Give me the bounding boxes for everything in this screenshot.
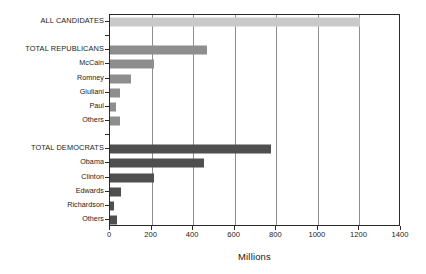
category-label: ALL CANDIDATES <box>41 17 104 24</box>
category-label: Others <box>82 215 104 222</box>
category-label: TOTAL DEMOCRATS <box>31 145 104 152</box>
x-axis-tick-label: 1400 <box>392 231 409 239</box>
y-axis-tick <box>105 191 109 192</box>
y-axis-tick <box>105 219 109 220</box>
bar <box>110 145 271 154</box>
category-label: Clinton <box>81 173 104 180</box>
y-axis-tick <box>105 21 109 22</box>
plot-area <box>109 14 400 226</box>
bar <box>110 102 116 111</box>
bar <box>110 74 131 83</box>
category-label: Obama <box>80 159 104 166</box>
gridline <box>235 15 236 225</box>
bar <box>110 46 207 55</box>
x-axis-tick-label: 600 <box>227 231 240 239</box>
gridline <box>359 15 360 225</box>
x-axis-tick-label: 1000 <box>308 231 325 239</box>
y-axis-tick <box>105 63 109 64</box>
y-axis-tick <box>105 205 109 206</box>
bar <box>110 173 154 182</box>
x-axis-title: Millions <box>109 252 400 261</box>
y-axis-tick <box>105 49 109 50</box>
bar <box>110 215 117 224</box>
category-label: Richardson <box>67 201 104 208</box>
bar-chart: ALL CANDIDATESTOTAL REPUBLICANSMcCainRom… <box>0 0 426 274</box>
category-label: Paul <box>89 102 104 109</box>
y-axis-tick <box>105 120 109 121</box>
x-axis-tick-label: 1200 <box>350 231 367 239</box>
y-axis-tick <box>105 35 109 36</box>
bar <box>110 88 120 97</box>
category-label: McCain <box>79 60 104 67</box>
category-label: Others <box>82 116 104 123</box>
category-label: TOTAL REPUBLICANS <box>25 46 104 53</box>
x-axis-tick-label: 200 <box>144 231 157 239</box>
category-label: Giuliani <box>80 88 104 95</box>
x-axis-tick-label: 0 <box>107 231 111 239</box>
y-axis-tick <box>105 92 109 93</box>
category-label-column: ALL CANDIDATESTOTAL REPUBLICANSMcCainRom… <box>0 14 107 226</box>
bar <box>110 117 120 126</box>
bar <box>110 159 204 168</box>
y-axis-tick <box>105 134 109 135</box>
y-axis-tick <box>105 177 109 178</box>
gridline <box>276 15 277 225</box>
y-axis-tick <box>105 162 109 163</box>
category-label: Edwards <box>76 187 104 194</box>
x-axis-tick-label: 800 <box>269 231 282 239</box>
bar <box>110 18 360 27</box>
y-axis-tick <box>105 148 109 149</box>
y-axis-tick <box>105 106 109 107</box>
bar <box>110 60 154 69</box>
category-label: Romney <box>77 74 104 81</box>
bar <box>110 187 121 196</box>
bar <box>110 201 114 210</box>
gridline <box>318 15 319 225</box>
y-axis-tick <box>105 78 109 79</box>
x-axis-tick-label: 400 <box>186 231 199 239</box>
